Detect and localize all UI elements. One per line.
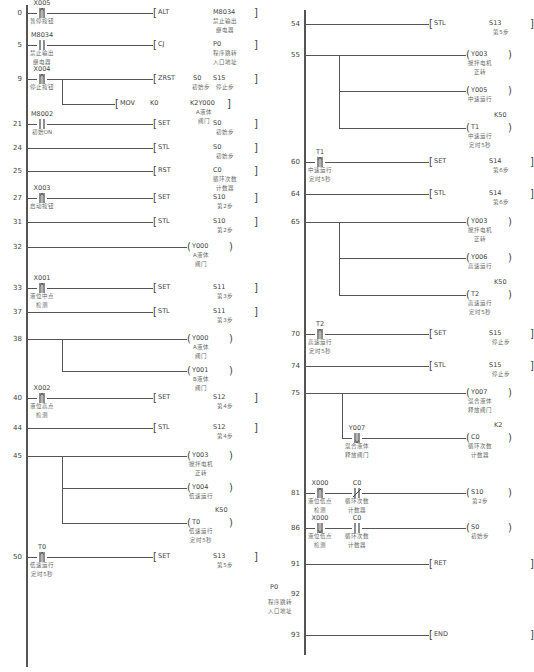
instruction-close-bracket: ] xyxy=(530,19,534,29)
contact-comment: 停止按钮 xyxy=(22,83,62,92)
contact-address: M8034 xyxy=(29,31,55,39)
instruction-open-bracket: [ xyxy=(153,423,157,433)
instruction-open-bracket: [ xyxy=(153,40,157,50)
instruction-close-bracket: ] xyxy=(254,423,258,433)
instruction-name: STL xyxy=(158,307,170,315)
contact-address: T2 xyxy=(307,320,333,328)
instruction-operand-2: S12 xyxy=(213,393,225,401)
coil-address: Y005 xyxy=(471,86,487,94)
normally-open-contact-icon xyxy=(37,118,47,128)
instruction-operand-2: S14 xyxy=(489,189,501,197)
coil-address: Y007 xyxy=(471,388,487,396)
instruction-close-bracket: ] xyxy=(530,559,534,569)
instruction-open-bracket: [ xyxy=(153,307,157,317)
coil-close-paren: ) xyxy=(229,483,233,493)
instruction-operand-1: K0 xyxy=(150,99,158,107)
rising-edge-contact-icon xyxy=(37,73,47,83)
instruction-operand-2: S15 xyxy=(213,74,225,82)
coil-address: Y003 xyxy=(471,217,487,225)
instruction-name: ZRST xyxy=(158,74,175,82)
timer-preset: K50 xyxy=(494,278,507,286)
step-number: 91 xyxy=(282,560,300,568)
instruction-operand-1: S0 xyxy=(193,74,201,82)
pointer-comment: 程序跳转 入口地址 xyxy=(262,598,298,616)
instruction-close-bracket: ] xyxy=(254,393,258,403)
step-number: 5 xyxy=(4,41,22,49)
coil-close-paren: ) xyxy=(508,488,512,498)
rung-wire xyxy=(62,523,187,524)
contact-comment: 液位中点 检测 xyxy=(22,292,62,310)
coil-comment: 初始步 xyxy=(460,532,500,541)
step-number: 24 xyxy=(4,144,22,152)
coil-address: Y006 xyxy=(471,253,487,261)
coil-address: T1 xyxy=(471,123,479,131)
contact-address: X004 xyxy=(29,65,55,73)
rung-wire xyxy=(339,128,466,129)
operand-2-comment: 程序跳转 入口地址 xyxy=(207,49,243,67)
instruction-operand-2: S15 xyxy=(489,361,501,369)
step-number: 38 xyxy=(4,335,22,343)
rising-edge-contact-icon xyxy=(315,487,325,497)
step-number: 54 xyxy=(282,20,300,28)
rung-wire xyxy=(26,222,153,223)
step-number: 21 xyxy=(4,120,22,128)
falling-edge-contact-icon xyxy=(352,432,362,442)
instruction-name: SET xyxy=(158,193,170,201)
instruction-open-bracket: [ xyxy=(153,193,157,203)
rung-wire xyxy=(304,564,429,565)
instruction-name: STL xyxy=(158,143,170,151)
instruction-name: RET xyxy=(434,559,447,567)
timer-preset: K50 xyxy=(215,506,228,514)
rung-wire xyxy=(339,91,466,92)
contact-address: X003 xyxy=(29,184,55,192)
instruction-name: CJ xyxy=(158,40,164,48)
instruction-close-bracket: ] xyxy=(254,217,258,227)
contact-comment: 启动按钮 xyxy=(22,202,62,211)
rising-edge-contact-icon xyxy=(37,392,47,402)
instruction-operand-2: S13 xyxy=(213,552,225,560)
step-number: 60 xyxy=(282,158,300,166)
rung-wire xyxy=(26,247,187,248)
rung-wire xyxy=(304,55,466,56)
rung-wire xyxy=(26,456,187,457)
contact-comment: 循环次数 计数器 xyxy=(337,532,377,550)
contact-comment: 液位高点 检测 xyxy=(22,402,62,420)
operand-2-comment: 初始步 xyxy=(207,128,243,137)
step-number: 86 xyxy=(282,524,300,532)
coil-address: S10 xyxy=(471,488,483,496)
instruction-close-bracket: ] xyxy=(254,74,258,84)
instruction-operand-2: K2Y000 xyxy=(190,99,215,107)
contact-comment: 高速运行 定时5秒 xyxy=(300,338,340,356)
instruction-close-bracket: ] xyxy=(530,361,534,371)
coil-close-paren: ) xyxy=(508,253,512,263)
instruction-open-bracket: [ xyxy=(153,119,157,129)
operand-2-comment: 第4步 xyxy=(207,402,243,411)
step-number: 70 xyxy=(282,330,300,338)
coil-comment: 搅拌电机 正转 xyxy=(460,59,500,77)
operand-2-comment: 第4步 xyxy=(207,432,243,441)
contact-comment: 液位低点 检测 xyxy=(300,497,340,515)
branch-wire xyxy=(62,339,63,371)
instruction-open-bracket: [ xyxy=(153,8,157,18)
coil-address: Y004 xyxy=(192,483,208,491)
instruction-open-bracket: [ xyxy=(429,630,433,640)
operand-2-comment: 停止步 xyxy=(483,370,519,379)
contact-address: T0 xyxy=(29,543,55,551)
coil-close-paren: ) xyxy=(229,518,233,528)
coil-comment: 循环次数 计数器 xyxy=(460,442,500,460)
instruction-close-bracket: ] xyxy=(254,119,258,129)
contact-address: C0 xyxy=(344,514,370,522)
timer-preset: K2 xyxy=(494,421,502,429)
coil-close-paren: ) xyxy=(508,50,512,60)
rung-wire xyxy=(304,222,466,223)
instruction-name: END xyxy=(434,630,448,638)
operand-2-comment: 第6步 xyxy=(483,166,519,175)
instruction-name: STL xyxy=(158,217,170,225)
step-number: 44 xyxy=(4,424,22,432)
coil-close-paren: ) xyxy=(508,433,512,443)
operand-2-comment: 第3步 xyxy=(207,316,243,325)
instruction-operand-2: S12 xyxy=(213,423,225,431)
instruction-close-bracket: ] xyxy=(254,166,258,176)
rung-wire xyxy=(26,171,153,172)
step-number: 64 xyxy=(282,190,300,198)
